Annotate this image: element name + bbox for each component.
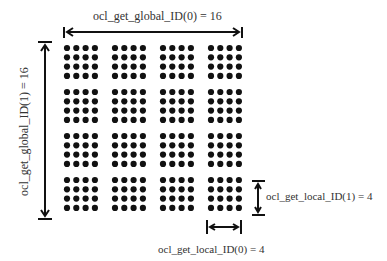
work-item-dot bbox=[236, 161, 242, 167]
work-item-dot bbox=[83, 196, 89, 202]
work-item-dot bbox=[217, 89, 223, 95]
work-item-dot bbox=[160, 142, 166, 148]
work-item-dot bbox=[83, 73, 89, 79]
work-item-dot bbox=[179, 64, 185, 70]
work-item-dot bbox=[208, 73, 214, 79]
work-item-dot bbox=[179, 89, 185, 95]
global-x-label: ocl_get_global_ID(0) = 16 bbox=[93, 9, 222, 24]
work-item-dot bbox=[160, 89, 166, 95]
work-item-dot bbox=[160, 98, 166, 104]
work-item-dot bbox=[217, 186, 223, 192]
work-item-dot bbox=[188, 73, 194, 79]
work-item-dot bbox=[179, 177, 185, 183]
work-item-dot bbox=[73, 196, 79, 202]
work-item-dot bbox=[64, 152, 70, 158]
work-item-dot bbox=[83, 89, 89, 95]
work-item-dot bbox=[73, 45, 79, 51]
work-item-dot bbox=[188, 205, 194, 211]
work-item-dot bbox=[83, 54, 89, 60]
work-item-dot bbox=[227, 177, 233, 183]
work-item-dot bbox=[73, 54, 79, 60]
work-item-dot bbox=[140, 133, 146, 139]
work-item-dot bbox=[131, 54, 137, 60]
work-item-dot bbox=[188, 54, 194, 60]
work-item-dot bbox=[236, 196, 242, 202]
work-item-dot bbox=[217, 64, 223, 70]
work-item-dot bbox=[121, 89, 127, 95]
work-item-dot bbox=[169, 205, 175, 211]
work-item-dot bbox=[227, 133, 233, 139]
work-item-dot bbox=[169, 45, 175, 51]
work-item-dot bbox=[131, 89, 137, 95]
work-item-dot bbox=[208, 133, 214, 139]
work-item-dot bbox=[169, 142, 175, 148]
work-item-dot bbox=[227, 54, 233, 60]
work-item-dot bbox=[112, 108, 118, 114]
work-item-dot bbox=[73, 133, 79, 139]
work-item-dot bbox=[140, 161, 146, 167]
work-item-dot bbox=[208, 117, 214, 123]
work-item-dot bbox=[236, 45, 242, 51]
work-item-dot bbox=[188, 186, 194, 192]
work-item-dot bbox=[140, 73, 146, 79]
work-item-dot bbox=[208, 186, 214, 192]
work-item-dot bbox=[64, 117, 70, 123]
work-item-dot bbox=[92, 152, 98, 158]
work-item-dot bbox=[92, 54, 98, 60]
work-item-dot bbox=[169, 186, 175, 192]
work-item-dot bbox=[83, 64, 89, 70]
work-item-dot bbox=[179, 133, 185, 139]
work-item-dot bbox=[227, 152, 233, 158]
work-item-dot bbox=[179, 117, 185, 123]
work-item-dot bbox=[169, 117, 175, 123]
work-item-dot bbox=[227, 73, 233, 79]
work-item-dot bbox=[112, 152, 118, 158]
work-item-dot bbox=[73, 64, 79, 70]
work-item-dot bbox=[169, 133, 175, 139]
work-item-dot bbox=[121, 98, 127, 104]
work-item-dot bbox=[131, 108, 137, 114]
work-item-dot bbox=[131, 152, 137, 158]
work-item-dot bbox=[131, 186, 137, 192]
work-item-dot bbox=[160, 117, 166, 123]
work-item-dot bbox=[236, 98, 242, 104]
work-item-dot bbox=[121, 133, 127, 139]
work-item-dot bbox=[188, 177, 194, 183]
work-item-dot bbox=[64, 73, 70, 79]
work-item-dot bbox=[73, 161, 79, 167]
work-item-dot bbox=[217, 133, 223, 139]
work-item-dot bbox=[83, 152, 89, 158]
work-item-dot bbox=[73, 205, 79, 211]
work-item-dot bbox=[217, 205, 223, 211]
work-item-dot bbox=[160, 73, 166, 79]
work-item-dot bbox=[160, 196, 166, 202]
work-item-dot bbox=[179, 186, 185, 192]
work-item-dot bbox=[121, 161, 127, 167]
work-item-dot bbox=[73, 108, 79, 114]
work-item-dot bbox=[131, 196, 137, 202]
work-item-dot bbox=[112, 45, 118, 51]
work-item-dot bbox=[64, 108, 70, 114]
work-item-dot bbox=[179, 98, 185, 104]
work-item-dot bbox=[92, 196, 98, 202]
work-item-dot bbox=[188, 108, 194, 114]
work-item-dot bbox=[140, 186, 146, 192]
work-item-dot bbox=[217, 177, 223, 183]
work-item-dot bbox=[140, 45, 146, 51]
work-item-dot bbox=[83, 98, 89, 104]
work-item-dot bbox=[112, 133, 118, 139]
work-item-dot bbox=[112, 98, 118, 104]
work-item-dot bbox=[112, 54, 118, 60]
work-item-dot bbox=[131, 98, 137, 104]
work-item-dot bbox=[83, 45, 89, 51]
work-item-dot bbox=[83, 133, 89, 139]
work-item-dot bbox=[208, 54, 214, 60]
work-item-dot bbox=[131, 73, 137, 79]
work-item-dot bbox=[73, 73, 79, 79]
work-item-dot bbox=[179, 196, 185, 202]
work-item-dot bbox=[208, 161, 214, 167]
local-x-arrow bbox=[207, 220, 241, 234]
work-item-dot bbox=[160, 64, 166, 70]
work-item-dot bbox=[73, 152, 79, 158]
work-item-dot bbox=[227, 161, 233, 167]
